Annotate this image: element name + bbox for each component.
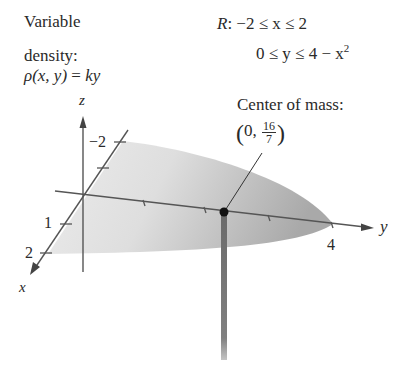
paren-close: ) <box>277 120 285 146</box>
x-tick-neg2: −2 <box>89 132 106 152</box>
center-of-mass-label: Center of mass: <box>237 95 344 115</box>
density-label-line2: density: <box>24 46 78 66</box>
region-line2: 0 ≤ y ≤ 4 − x2 <box>256 38 349 64</box>
density-formula: ρ(x, y) = ky <box>24 66 100 86</box>
region-label: R <box>217 14 227 33</box>
density-formula-lhs: ρ(x, y) <box>24 66 67 85</box>
center-x: 0, <box>244 121 257 140</box>
balance-stick <box>221 214 227 360</box>
region-line2-base: 0 ≤ y ≤ 4 − x <box>256 44 344 63</box>
density-label-line1: Variable <box>24 12 81 32</box>
density-formula-eq: = <box>67 66 85 85</box>
x-axis-label: x <box>19 277 26 297</box>
x-tick-2: 2 <box>25 243 33 263</box>
x-tick-1: 1 <box>44 213 52 233</box>
density-formula-rhs: ky <box>85 66 100 85</box>
region-line2-exponent: 2 <box>344 42 350 54</box>
y-axis-label: y <box>380 217 388 237</box>
region-line1: R: −2 ≤ x ≤ 2 <box>217 14 307 34</box>
y-tick-4: 4 <box>327 235 335 255</box>
center-y-fraction: 167 <box>262 120 276 145</box>
center-of-mass-point <box>220 208 229 217</box>
region-lamina <box>48 141 333 254</box>
center-y-denominator: 7 <box>262 133 276 145</box>
paren-open: ( <box>236 120 244 146</box>
z-axis-label: z <box>79 90 85 110</box>
region-line1-rest: : −2 ≤ x ≤ 2 <box>227 14 307 33</box>
center-of-mass-value: (0, 167) <box>236 120 285 145</box>
